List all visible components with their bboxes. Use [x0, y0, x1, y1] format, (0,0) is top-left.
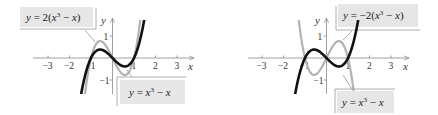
equation-text: y = −2(x3 − x): [342, 9, 404, 22]
y-tick-label: 1: [104, 32, 109, 42]
right-graph: y = −2(x3 − x) −3−2−11231−1 x y y = x3 −…: [248, 4, 420, 113]
x-tick-label: −2: [278, 61, 288, 71]
y-tick-label: −1: [314, 76, 324, 86]
left-graph: y = 2(x3 − x) −3−2−11231−1 x y y = x3 − …: [20, 7, 194, 106]
left-top-label: y = 2(x3 − x): [20, 7, 96, 42]
x-tick-label: 2: [153, 61, 158, 71]
equation-text: y = 2(x3 − x): [25, 11, 81, 24]
figure: y = 2(x3 − x) −3−2−11231−1 x y y = x3 − …: [0, 0, 438, 115]
y-axis-label: y: [314, 14, 320, 26]
right-bottom-label: y = x3 − x: [335, 75, 395, 113]
leader-line: [343, 31, 352, 40]
x-axis-label: x: [402, 60, 408, 72]
x-tick-label: −3: [43, 61, 53, 71]
x-tick-label: 2: [367, 61, 372, 71]
left-bottom-label: y = x3 − x: [117, 70, 186, 106]
right-top-label: y = −2(x3 − x): [336, 4, 420, 40]
x-tick-label: −2: [64, 61, 74, 71]
x-tick-label: 3: [389, 61, 394, 71]
leader-line: [85, 30, 95, 42]
y-axis-label: y: [100, 14, 106, 26]
x-axis-label: x: [187, 60, 193, 72]
y-tick-label: −1: [100, 76, 110, 86]
x-ticks: −3−2−11231−1: [257, 32, 394, 86]
equation-text: y = x3 − x: [341, 96, 384, 108]
x-tick-label: 3: [175, 61, 180, 71]
y-tick-label: 1: [318, 32, 323, 42]
x-tick-label: −3: [257, 61, 267, 71]
equation-text: y = x3 − x: [128, 86, 171, 98]
